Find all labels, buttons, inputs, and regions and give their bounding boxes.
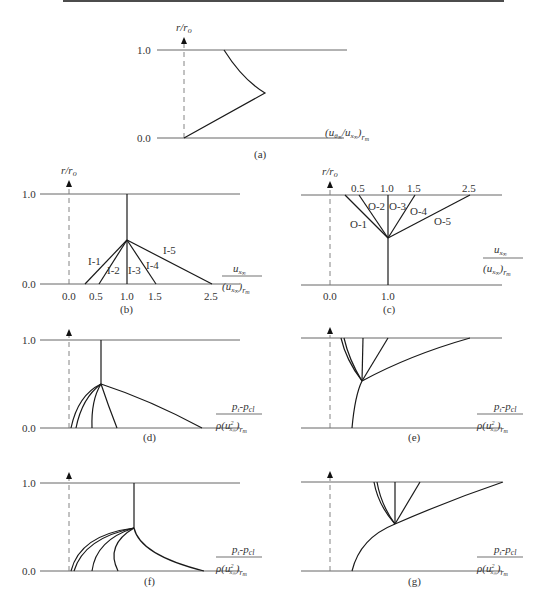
svg-text:pt-pcl: pt-pcl xyxy=(231,543,255,557)
caption-b: (b) xyxy=(120,303,133,316)
top-tick: 0.5 xyxy=(351,182,365,194)
arrow-up-icon xyxy=(181,37,187,44)
xtick: 1.0 xyxy=(381,290,395,302)
xtick: 2.5 xyxy=(204,290,218,302)
curve-lower xyxy=(352,381,362,428)
caption-c: (c) xyxy=(383,303,396,316)
x-axis-label: ux∞ (ux∞)rm xyxy=(483,243,523,277)
panel-c: r/ro 0.5 1.0 1.5 2.5 O-1 O-2 O-3 O-4 O-5… xyxy=(301,165,523,316)
label-O-1: O-1 xyxy=(350,218,367,230)
y-axis-label: r/ro xyxy=(61,164,77,178)
curve-2 xyxy=(377,482,395,524)
x-axis-label: pt-pcl ρ(u2x∞)rm xyxy=(215,400,262,434)
curve-5 xyxy=(362,338,470,381)
x-axis-label: ux∞ (ux∞)rm xyxy=(222,262,262,295)
swirl-profile-curve xyxy=(184,50,265,138)
arrow-up-icon xyxy=(327,327,333,334)
caption-e: (e) xyxy=(408,431,421,444)
xtick: 0.5 xyxy=(89,290,103,302)
caption-g: (g) xyxy=(408,575,421,588)
svg-text:pt-pcl: pt-pcl xyxy=(231,400,255,414)
caption-d: (d) xyxy=(143,431,156,444)
curve-1 xyxy=(374,482,395,524)
curve-5 xyxy=(395,482,503,524)
curve-1 xyxy=(71,384,101,428)
svg-text:(ux∞)rm: (ux∞)rm xyxy=(483,262,511,277)
arrow-up-icon xyxy=(327,471,333,478)
curve-5 xyxy=(101,384,202,428)
curve-4 xyxy=(114,528,134,571)
caption-f: (f) xyxy=(144,575,155,588)
arrow-up-icon xyxy=(66,472,72,479)
panel-a: r/ro 1.0 0.0 (uθ∞/ux∞)rm (a) xyxy=(137,21,370,161)
caption-a: (a) xyxy=(254,148,267,161)
label-O-4: O-4 xyxy=(410,205,428,217)
svg-text:ρ(u2x∞)rm: ρ(u2x∞)rm xyxy=(215,419,248,434)
arrow-up-icon xyxy=(66,329,72,336)
ytick-1: 1.0 xyxy=(22,334,36,346)
label-O-5: O-5 xyxy=(434,215,452,227)
label-I-5: I-5 xyxy=(163,244,176,256)
label-I-1: I-1 xyxy=(88,255,101,267)
svg-text:ρ(u2x∞)rm: ρ(u2x∞)rm xyxy=(476,562,509,577)
label-I-2: I-2 xyxy=(107,264,120,276)
panel-d: 1.0 0.0 pt-pcl ρ(u2x∞)rm (d) xyxy=(22,329,262,444)
arrow-up-icon xyxy=(327,181,333,188)
figure-canvas: r/ro 1.0 0.0 (uθ∞/ux∞)rm (a) r/ro 1.0 0.… xyxy=(0,0,552,600)
ytick-1: 1.0 xyxy=(22,477,36,489)
panel-e: pt-pcl ρ(u2x∞)rm (e) xyxy=(301,327,523,444)
label-I-4: I-4 xyxy=(146,259,159,271)
label-I-3: I-3 xyxy=(128,264,141,276)
ytick-0: 0.0 xyxy=(22,278,36,290)
panel-f: 1.0 0.0 pt-pcl ρ(u2x∞)rm (f) xyxy=(22,472,262,588)
x-axis-label: pt-pcl ρ(u2x∞)rm xyxy=(476,543,523,577)
ytick-0: 0.0 xyxy=(22,565,36,577)
label-O-3: O-3 xyxy=(389,200,407,212)
curve-2 xyxy=(344,338,362,381)
arrow-up-icon xyxy=(66,180,72,187)
x-axis-label: pt-pcl ρ(u2x∞)rm xyxy=(215,543,262,577)
svg-text:pt-pcl: pt-pcl xyxy=(493,543,517,557)
svg-text:ux∞: ux∞ xyxy=(233,262,247,276)
svg-text:ux∞: ux∞ xyxy=(494,243,508,257)
curve-4 xyxy=(101,384,117,428)
y-axis-label: r/ro xyxy=(176,21,192,35)
curve-3 xyxy=(362,338,363,381)
xtick: 1.0 xyxy=(120,290,134,302)
xtick: 0.0 xyxy=(323,290,337,302)
ytick-0: 0.0 xyxy=(22,422,36,434)
panel-b: r/ro 1.0 0.0 I-1 I-2 I-3 I-4 I-5 0.0 0.5… xyxy=(22,164,262,316)
xtick: 0.0 xyxy=(62,290,76,302)
ytick-1: 1.0 xyxy=(137,44,151,56)
y-axis-label: r/ro xyxy=(322,165,338,179)
x-axis-label: (uθ∞/ux∞)rm xyxy=(325,126,370,142)
curve-lower xyxy=(352,524,395,571)
xtick: 1.5 xyxy=(148,290,162,302)
top-tick: 1.5 xyxy=(407,182,421,194)
top-tick: 2.5 xyxy=(462,182,476,194)
ytick-0: 0.0 xyxy=(137,132,151,144)
svg-text:ρ(u2x∞)rm: ρ(u2x∞)rm xyxy=(476,419,509,434)
x-axis-label: pt-pcl ρ(u2x∞)rm xyxy=(476,400,523,434)
label-O-2: O-2 xyxy=(368,200,385,212)
svg-text:ρ(u2x∞)rm: ρ(u2x∞)rm xyxy=(215,562,248,577)
panel-g: pt-pcl ρ(u2x∞)rm (g) xyxy=(301,471,523,588)
ytick-1: 1.0 xyxy=(22,188,36,200)
curve-I-2 xyxy=(99,240,127,284)
svg-text:(ux∞)rm: (ux∞)rm xyxy=(222,280,250,295)
top-tick: 1.0 xyxy=(380,182,394,194)
curve-4 xyxy=(395,482,420,524)
svg-text:pt-pcl: pt-pcl xyxy=(493,400,517,414)
curve-5 xyxy=(134,528,204,571)
